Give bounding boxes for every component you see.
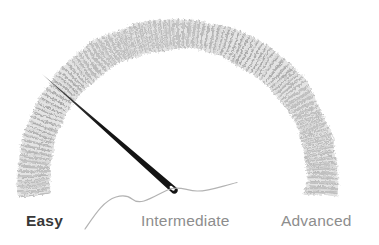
needle-pointer (42, 74, 178, 194)
gauge-label-intermediate: Intermediate (141, 212, 230, 229)
needle-shaft (42, 74, 178, 194)
gauge-illustration (0, 0, 379, 245)
yarn-arc (34, 34, 322, 196)
difficulty-gauge: Easy Intermediate Advanced (0, 0, 379, 245)
gauge-label-easy: Easy (26, 212, 63, 229)
gauge-label-advanced: Advanced (281, 212, 352, 229)
